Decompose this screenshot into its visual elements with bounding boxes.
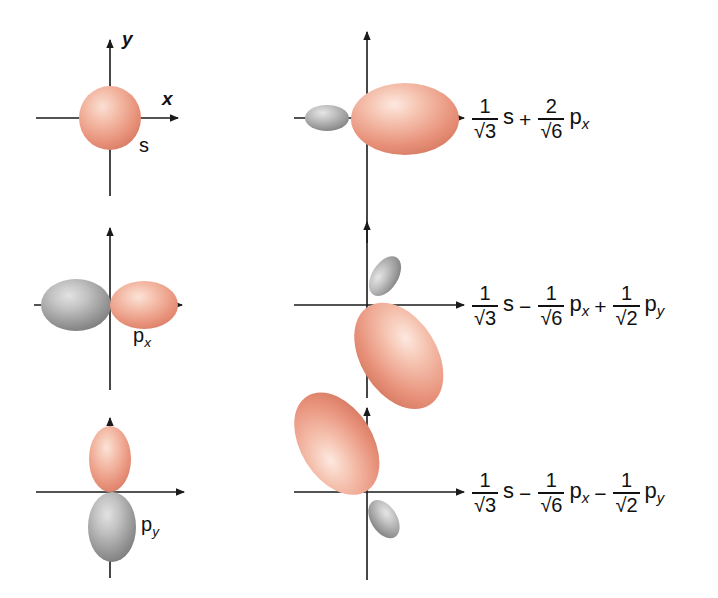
radicand: 6 (551, 495, 562, 516)
fraction: 2 √6 (538, 96, 564, 142)
orbital-symbol-sub: y (657, 489, 664, 506)
px-lobe-negative (41, 279, 111, 331)
radicand: 2 (626, 308, 637, 329)
fraction-denominator: √3 (472, 121, 498, 142)
radical-icon: √ (474, 308, 485, 329)
equation-hybrid-3: 1 √3 s − 1 √6 px − 1 √2 py (470, 470, 664, 516)
equation-term: 1 √3 s (470, 470, 514, 516)
fraction-numerator: 1 (476, 283, 493, 304)
operator: + (594, 296, 606, 317)
fraction: 1 √6 (538, 470, 564, 516)
radical-icon: √ (540, 121, 551, 142)
orbital-symbol: py (645, 293, 665, 319)
radicand: 6 (551, 121, 562, 142)
radical-icon: √ (474, 121, 485, 142)
fraction-denominator: √6 (538, 121, 564, 142)
fraction: 1 √6 (538, 283, 564, 329)
orbital-symbol-text: p (645, 291, 657, 316)
radical-icon: √ (540, 308, 551, 329)
equation-hybrid-2: 1 √3 s − 1 √6 px + 1 √2 py (470, 283, 664, 329)
radicand: 3 (485, 495, 496, 516)
orbital-label-py: py (141, 513, 159, 539)
py-lobe-positive (89, 426, 131, 492)
panel-hybrid-orbital-3 (277, 377, 464, 580)
fraction-denominator: √3 (472, 495, 498, 516)
fraction-denominator: √6 (538, 308, 564, 329)
fraction: 1 √2 (613, 283, 639, 329)
operator: − (594, 483, 606, 504)
fraction-numerator: 1 (543, 470, 560, 491)
orbital-symbol: px (569, 293, 589, 319)
orbital-symbol-text: p (569, 478, 581, 503)
radical-icon: √ (615, 308, 626, 329)
orbital-symbol: px (569, 106, 589, 132)
fraction: 1 √3 (472, 283, 498, 329)
fraction-denominator: √3 (472, 308, 498, 329)
fraction-numerator: 1 (618, 283, 635, 304)
fraction-denominator: √2 (613, 308, 639, 329)
orbital-symbol-text: s (503, 291, 514, 316)
operator: + (519, 109, 531, 130)
y-axis-label: y (122, 28, 133, 50)
orbital-label-s-text: s (139, 134, 149, 156)
x-axis-label: x (162, 88, 173, 110)
orbital-symbol-text: s (503, 104, 514, 129)
fraction: 1 √3 (472, 96, 498, 142)
s-lobe-positive (79, 86, 141, 150)
fraction-numerator: 1 (476, 96, 493, 117)
radical-icon: √ (615, 495, 626, 516)
orbital-label-py-text: p (141, 513, 152, 535)
fraction-numerator: 1 (618, 470, 635, 491)
fraction: 1 √2 (613, 470, 639, 516)
orbital-symbol: py (645, 480, 665, 506)
px-lobe-positive (110, 281, 178, 329)
orbital-symbol-sub: y (657, 302, 664, 319)
equation-term: 1 √6 px (536, 470, 589, 516)
panel-s-orbital (36, 40, 178, 196)
operator: − (519, 296, 531, 317)
radicand: 3 (485, 121, 496, 142)
equation-term: 1 √2 py (611, 283, 664, 329)
equation-hybrid-1: 1 √3 s + 2 √6 px (470, 96, 589, 142)
panel-px-orbital (34, 228, 182, 390)
fraction-denominator: √6 (538, 495, 564, 516)
fraction-denominator: √2 (613, 495, 639, 516)
orbital-symbol-text: p (569, 291, 581, 316)
hybrid1-lobe-negative (305, 105, 349, 131)
orbital-symbol: px (569, 480, 589, 506)
orbital-hybridization-figure: y x s px py 1 √3 s + 2 √6 px (0, 0, 718, 598)
fraction-numerator: 1 (543, 283, 560, 304)
orbital-label-px: px (133, 324, 151, 350)
fraction-numerator: 1 (476, 470, 493, 491)
orbital-symbol-sub: x (582, 115, 589, 132)
orbital-symbol-sub: x (582, 302, 589, 319)
orbital-label-py-sub: y (152, 524, 159, 539)
equation-term: 1 √3 s (470, 283, 514, 329)
hybrid1-lobe-positive (351, 83, 459, 155)
orbital-symbol: s (503, 106, 514, 132)
radicand: 2 (626, 495, 637, 516)
operator: − (519, 483, 531, 504)
orbital-symbol: s (503, 293, 514, 319)
equation-term: 1 √3 s (470, 96, 514, 142)
panel-py-orbital (36, 418, 184, 578)
equation-term: 2 √6 px (536, 96, 589, 142)
orbital-symbol-sub: x (582, 489, 589, 506)
orbital-label-s: s (139, 134, 149, 160)
hybrid3-lobe-positive (277, 377, 397, 510)
orbital-symbol-text: p (569, 104, 581, 129)
py-lobe-negative (88, 492, 136, 562)
radical-icon: √ (474, 495, 485, 516)
orbital-symbol-text: p (645, 478, 657, 503)
hybrid2-lobe-negative (362, 251, 407, 302)
orbital-symbol: s (503, 480, 514, 506)
fraction-numerator: 2 (543, 96, 560, 117)
orbital-label-px-text: p (133, 324, 144, 346)
fraction: 1 √3 (472, 470, 498, 516)
panel-hybrid-orbital-1 (294, 32, 464, 243)
hybrid3-lobe-negative (362, 494, 406, 543)
radicand: 3 (485, 308, 496, 329)
orbital-symbol-text: s (503, 478, 514, 503)
orbital-label-px-sub: x (144, 335, 151, 350)
equation-term: 1 √6 px (536, 283, 589, 329)
